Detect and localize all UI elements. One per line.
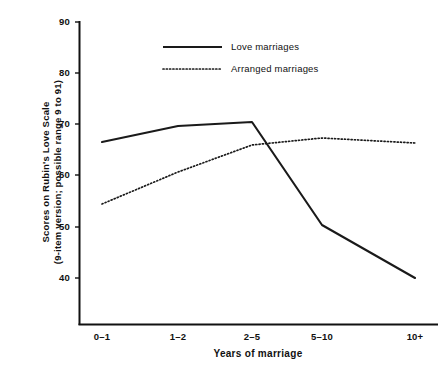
- x-axis-title: Years of marriage: [78, 348, 438, 359]
- x-tick-label-10-plus: 10+: [385, 331, 445, 342]
- x-tick-label-2-5: 2–5: [222, 331, 282, 342]
- y-axis-title: Scores on Rubin's Love Scale (9-item ver…: [40, 47, 64, 297]
- x-tick-label-5-10: 5–10: [292, 331, 352, 342]
- series-line-love-marriages: [102, 122, 415, 278]
- series-line-arranged-marriages: [102, 138, 415, 204]
- legend-label-love-marriages: Love marriages: [231, 41, 299, 52]
- chart-figure: 90 80 70 60 50 40 0–1 1–2 2–5 5–10 10+ Y…: [0, 0, 445, 373]
- legend-label-arranged-marriages: Arranged marriages: [231, 63, 319, 74]
- x-tick-label-0-1: 0–1: [72, 331, 132, 342]
- y-tick-label-90: 90: [44, 16, 70, 27]
- line-chart-plot: [0, 0, 445, 373]
- x-tick-label-1-2: 1–2: [148, 331, 208, 342]
- y-axis-title-line-1: Scores on Rubin's Love Scale: [40, 47, 52, 297]
- y-axis-title-line-2: (9-item version; possible range 9 to 91): [52, 47, 64, 297]
